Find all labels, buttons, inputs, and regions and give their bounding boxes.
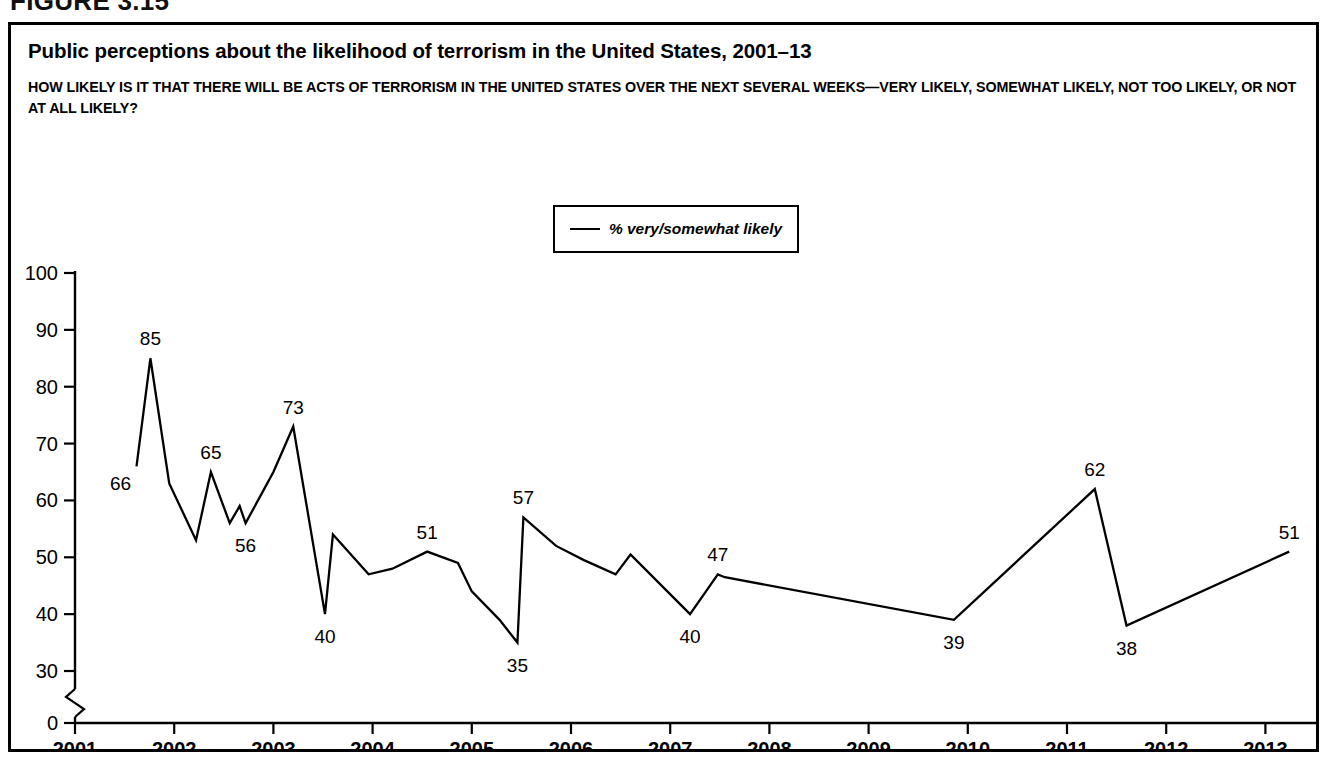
- y-axis-tick-label: 30: [36, 660, 58, 682]
- x-axis-tick-label: 2008: [747, 738, 792, 752]
- x-axis-tick-label: 2013: [1243, 738, 1288, 752]
- data-point-label: 47: [707, 544, 728, 565]
- x-axis-tick-label: 2011: [1045, 738, 1088, 752]
- x-axis-tick-label: 2007: [648, 738, 693, 752]
- data-point-label: 40: [679, 626, 700, 647]
- chart-plot-area: 0304050607080901002001200220032004200520…: [11, 25, 1319, 752]
- x-axis-tick-label: 2002: [152, 738, 197, 752]
- y-axis-tick-label: 100: [25, 262, 58, 284]
- data-point-label: 51: [1279, 522, 1300, 543]
- data-point-label: 65: [200, 442, 221, 463]
- y-axis-tick-label: 60: [36, 489, 58, 511]
- data-point-label: 56: [235, 535, 256, 556]
- data-point-label: 40: [314, 626, 335, 647]
- figure-label: FIGURE 3.15: [10, 0, 169, 17]
- y-axis-tick-label: 50: [36, 546, 58, 568]
- x-axis-tick-label: 2005: [450, 738, 495, 752]
- x-axis-tick-label: 2006: [549, 738, 594, 752]
- data-point-label: 85: [140, 328, 161, 349]
- data-point-label: 38: [1116, 638, 1137, 659]
- x-axis-tick-label: 2001: [53, 738, 98, 752]
- x-axis-tick-label: 2009: [846, 738, 891, 752]
- y-axis-tick-label: 40: [36, 603, 58, 625]
- data-point-label: 66: [110, 473, 131, 494]
- data-point-label: 35: [507, 655, 528, 676]
- data-point-label: 73: [283, 397, 304, 418]
- series-line-very-somewhat-likely: [137, 358, 1290, 642]
- y-axis-tick-label: 80: [36, 376, 58, 398]
- y-axis-break-icon: [66, 689, 84, 717]
- data-point-label: 57: [513, 487, 534, 508]
- data-point-label: 39: [943, 632, 964, 653]
- y-axis-tick-label: 0: [47, 712, 58, 734]
- x-axis-tick-label: 2004: [350, 738, 395, 752]
- x-axis-tick-label: 2010: [946, 738, 991, 752]
- data-point-label: 51: [417, 522, 438, 543]
- x-axis-tick-label: 2003: [251, 738, 296, 752]
- data-point-label: 62: [1084, 459, 1105, 480]
- x-axis-tick-label: 2012: [1144, 738, 1189, 752]
- y-axis-tick-label: 70: [36, 433, 58, 455]
- figure-frame: Public perceptions about the likelihood …: [8, 22, 1319, 752]
- y-axis-tick-label: 90: [36, 319, 58, 341]
